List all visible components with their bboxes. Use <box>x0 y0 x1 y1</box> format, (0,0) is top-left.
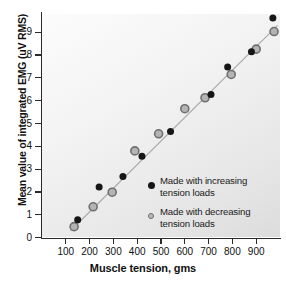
legend-line-2: tension loads <box>160 218 215 229</box>
y-tick <box>35 214 41 215</box>
y-axis-line <box>41 12 42 239</box>
y-tick <box>35 54 41 55</box>
y-tick <box>35 100 41 101</box>
legend-label-increasing: Made with increasing tension loads <box>160 175 247 198</box>
x-tick <box>184 238 185 244</box>
y-tick <box>35 146 41 147</box>
y-tick-label: 5 <box>16 119 32 129</box>
y-tick-label: 2 <box>16 187 32 197</box>
legend-line-1: Made with decreasing <box>160 206 250 217</box>
y-tick-label: 8 <box>16 50 32 60</box>
y-tick-label: 0 <box>16 233 32 243</box>
y-tick-label: 3 <box>16 164 32 174</box>
y-tick-label: 7 <box>16 73 32 83</box>
y-tick-label: 9 <box>16 27 32 37</box>
y-tick <box>35 123 41 124</box>
legend-line-1: Made with increasing <box>160 175 247 186</box>
filled-circle-icon <box>148 182 155 189</box>
y-tick <box>35 191 41 192</box>
x-tick <box>113 238 114 244</box>
x-tick <box>137 238 138 244</box>
legend-line-2: tension loads <box>160 187 215 198</box>
emg-muscle-tension-scatter-chart: Mean value of integrated EMG (uV RMS) 01… <box>0 0 286 283</box>
x-tick-label: 900 <box>241 246 271 257</box>
x-tick <box>89 238 90 244</box>
y-tick <box>35 237 41 238</box>
y-axis-title: Mean value of integrated EMG (uV RMS) <box>16 10 28 210</box>
y-tick <box>35 77 41 78</box>
y-tick <box>35 32 41 33</box>
legend-label-decreasing: Made with decreasing tension loads <box>160 206 250 229</box>
x-axis-title: Muscle tension, gms <box>0 262 286 274</box>
plot-area <box>42 14 280 237</box>
y-tick <box>35 169 41 170</box>
open-circle-icon <box>148 213 154 219</box>
x-tick <box>160 238 161 244</box>
x-tick <box>65 238 66 244</box>
y-tick-label: 4 <box>16 141 32 151</box>
x-tick <box>208 238 209 244</box>
y-tick-label: 1 <box>16 210 32 220</box>
x-tick <box>256 238 257 244</box>
x-tick <box>232 238 233 244</box>
y-tick-label: 6 <box>16 96 32 106</box>
